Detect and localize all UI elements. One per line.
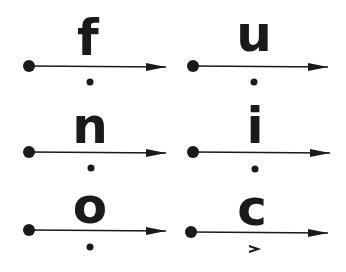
arrow-row-1-right bbox=[187, 60, 328, 86]
arrowhead-icon bbox=[308, 229, 328, 237]
arrowhead-icon bbox=[308, 63, 328, 71]
below-dot-icon bbox=[252, 166, 259, 173]
arrowhead-icon bbox=[146, 149, 166, 157]
arrows-layer bbox=[0, 0, 346, 272]
arrowhead-icon bbox=[146, 63, 166, 71]
letter-f: f bbox=[58, 13, 118, 63]
arrowhead-icon bbox=[310, 149, 330, 157]
letter-n: n bbox=[60, 101, 120, 151]
chevron-right-icon bbox=[249, 246, 258, 252]
letter-u: u bbox=[224, 9, 284, 59]
letter-i: i bbox=[225, 101, 285, 151]
below-dot-icon bbox=[87, 79, 94, 86]
below-dot-icon bbox=[251, 79, 258, 86]
below-dot-icon bbox=[88, 165, 95, 172]
below-dot-icon bbox=[87, 244, 94, 251]
letter-c: c bbox=[222, 183, 282, 233]
letter-o: o bbox=[60, 181, 120, 231]
arrowhead-icon bbox=[146, 227, 166, 235]
